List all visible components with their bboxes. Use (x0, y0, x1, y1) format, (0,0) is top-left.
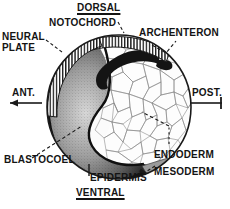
anterior-arrow (10, 100, 42, 107)
label-mesoderm: MESODERM (154, 167, 215, 177)
label-epidermis: EPIDERMIS (90, 173, 147, 183)
label-blastocoel: BLASTOCOEL (4, 155, 75, 165)
label-endoderm: ENDODERM (154, 150, 214, 160)
label-anterior: ANT. (12, 88, 35, 98)
leader-notochord (118, 22, 124, 33)
label-ventral: VENTRAL (76, 188, 125, 198)
label-neural-plate-line1: NEURAL (2, 32, 45, 42)
label-neural-plate-line2: PLATE (2, 43, 35, 53)
label-posterior: POST. (192, 88, 222, 98)
label-archenteron: ARCHENTERON (139, 28, 219, 38)
embryo-diagram-figure: DORSAL NOTOCHORD ARCHENTERON NEURAL PLAT… (0, 0, 230, 209)
posterior-arrow (190, 97, 222, 109)
label-notochord: NOTOCHORD (49, 18, 116, 28)
label-dorsal: DORSAL (77, 3, 120, 13)
leader-neural-plate (46, 40, 62, 52)
